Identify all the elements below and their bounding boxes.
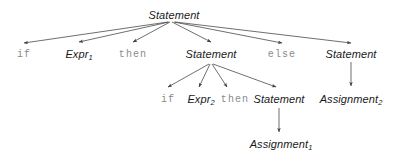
tree-node-expr1: Expr1 [65,49,92,60]
tree-node-label: Statement [253,93,304,105]
tree-node-then2: then [221,95,249,105]
tree-node-if2: if [161,95,175,105]
tree-edges [0,0,401,154]
tree-node-assign1: Assignment1 [250,139,313,150]
tree-node-label: Statement [185,48,236,60]
parse-tree-diagram: StatementifExpr1thenStatementelseStateme… [0,0,401,154]
tree-node-else1: else [268,50,296,60]
tree-node-label: then [119,49,147,60]
tree-node-subscript: 1 [88,53,92,62]
tree-edge-root-to-else1 [174,22,282,43]
tree-node-stmt3: Statement [325,49,376,60]
tree-node-label: else [268,49,296,60]
tree-edge-stmt2-to-stmt4 [213,64,276,87]
tree-node-subscript: 2 [378,98,382,107]
tree-edge-root-to-then1 [133,22,170,42]
tree-edge-root-to-stmt2 [172,22,211,42]
tree-node-subscript: 2 [210,98,214,107]
tree-node-root: Statement [148,10,199,21]
tree-edge-root-to-if1 [24,22,168,43]
tree-node-stmt4: Statement [253,94,304,105]
tree-edge-stmt2-to-expr2 [199,64,210,87]
tree-node-then1: then [119,50,147,60]
tree-node-label: then [221,94,249,105]
tree-node-label: Expr [65,48,88,60]
tree-node-if1: if [17,50,31,60]
tree-node-label: if [17,49,31,60]
edge-layer [24,22,351,132]
tree-node-label: Assignment [250,138,308,150]
tree-node-label: Assignment [320,93,378,105]
tree-node-label: Statement [325,48,376,60]
tree-edge-stmt2-to-then2 [212,64,227,87]
tree-node-subscript: 1 [308,143,312,152]
tree-node-label: Statement [148,9,199,21]
tree-node-assign2: Assignment2 [320,94,383,105]
tree-edge-root-to-stmt3 [175,22,351,43]
tree-edge-stmt2-to-if2 [168,64,209,87]
tree-node-label: Expr [187,93,210,105]
tree-node-label: if [161,94,175,105]
tree-edge-root-to-expr1 [79,22,169,42]
tree-node-expr2: Expr2 [187,94,214,105]
tree-node-stmt2: Statement [185,49,236,60]
